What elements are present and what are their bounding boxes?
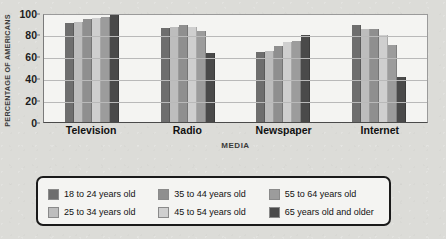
y-tick-mark-100 [37, 13, 40, 14]
plot-area [43, 14, 428, 123]
legend-label: 45 to 54 years old [174, 207, 246, 217]
legend-item: 45 to 54 years old [158, 203, 268, 221]
legend-label: 55 to 64 years old [285, 189, 357, 199]
legend-swatch [158, 189, 169, 200]
legend-swatch [48, 207, 59, 218]
legend-item: 25 to 34 years old [48, 203, 158, 221]
bar [197, 31, 206, 121]
y-tick-label-100: 100 [19, 8, 37, 20]
y-tick-label-60: 60 [25, 51, 37, 63]
bar [265, 51, 274, 122]
legend-label: 35 to 44 years old [174, 189, 246, 199]
legend-item: 35 to 44 years old [158, 185, 268, 203]
gridline-80 [44, 36, 427, 37]
bar [283, 42, 292, 122]
bar-groups [44, 15, 427, 122]
y-tick-label-80: 80 [25, 29, 37, 41]
y-tick-mark-60 [37, 57, 40, 58]
x-category-label-television: Television [43, 124, 139, 138]
y-tick-mark-40 [37, 78, 40, 79]
x-axis-title: MEDIA [43, 141, 428, 150]
bar-group [331, 15, 427, 122]
legend-swatch [48, 189, 59, 200]
y-axis-title-text: PERCENTAGE OF AMERICANS [3, 14, 12, 126]
bar [388, 45, 397, 121]
gridline-40 [44, 80, 427, 81]
legend-label: 18 to 24 years old [64, 189, 136, 199]
bar [397, 77, 406, 122]
x-axis-category-labels: TelevisionRadioNewspaperInternet [43, 124, 428, 138]
y-axis-title: PERCENTAGE OF AMERICANS [0, 0, 15, 140]
bar [206, 53, 215, 122]
legend-item: 18 to 24 years old [48, 185, 158, 203]
bar-group [140, 15, 236, 122]
y-axis-ticks: 100806040200 [16, 8, 40, 128]
legend-item: 55 to 64 years old [269, 185, 379, 203]
bar-group [236, 15, 332, 122]
y-tick-label-20: 20 [25, 95, 37, 107]
bar [292, 41, 301, 122]
bar [170, 27, 179, 122]
y-tick-mark-20 [37, 100, 40, 101]
legend-label: 25 to 34 years old [64, 207, 136, 217]
gridline-60 [44, 58, 427, 59]
legend-swatch [158, 207, 169, 218]
legend-swatch [269, 207, 280, 218]
bar [65, 23, 74, 121]
gridline-20 [44, 102, 427, 103]
bar [83, 19, 92, 121]
y-tick-mark-0 [37, 122, 40, 123]
bar [101, 17, 110, 122]
bar [179, 25, 188, 122]
legend-swatch [269, 189, 280, 200]
bar-group [44, 15, 140, 122]
bar [379, 35, 388, 121]
x-category-label-radio: Radio [139, 124, 235, 138]
chart-legend: 18 to 24 years old35 to 44 years old55 t… [36, 176, 391, 226]
bar [352, 25, 361, 122]
bar [110, 15, 119, 122]
y-tick-mark-80 [37, 35, 40, 36]
legend-item: 65 years old and older [269, 203, 379, 221]
bar [161, 28, 170, 122]
x-category-label-internet: Internet [332, 124, 428, 138]
bar [92, 18, 101, 122]
y-tick-label-40: 40 [25, 73, 37, 85]
x-category-label-newspaper: Newspaper [236, 124, 332, 138]
bar [370, 29, 379, 122]
bar [256, 52, 265, 122]
bar [301, 35, 310, 121]
bar [361, 29, 370, 122]
bar [188, 27, 197, 122]
legend-label: 65 years old and older [285, 207, 374, 217]
